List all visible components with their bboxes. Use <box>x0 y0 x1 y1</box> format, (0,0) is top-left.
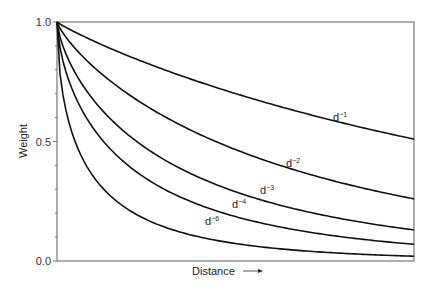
curve-d-4 <box>57 22 414 244</box>
curve-label-d-6: d−6 <box>205 215 219 227</box>
y-tick-label: 1.0 <box>36 16 51 28</box>
y-axis-label: Weight <box>17 124 29 158</box>
plot-frame <box>57 22 414 261</box>
curves <box>57 22 414 256</box>
chart: 0.00.51.0 d−1d−2d−3d−4d−6 Weight Distanc… <box>0 0 432 287</box>
curve-labels: d−1d−2d−3d−4d−6 <box>205 111 347 227</box>
curve-label-d-3: d−3 <box>260 184 274 196</box>
curve-label-d-2: d−2 <box>286 157 300 169</box>
y-tick-label: 0.0 <box>36 255 51 267</box>
curve-label-d-4: d−4 <box>232 198 246 210</box>
curve-label-d-1: d−1 <box>333 111 347 123</box>
x-axis-label: Distance <box>192 265 235 277</box>
x-axis-arrow-icon <box>243 269 263 273</box>
curve-d-6 <box>57 22 414 256</box>
y-axis-ticks: 0.00.51.0 <box>36 16 57 267</box>
y-tick-label: 0.5 <box>36 136 51 148</box>
